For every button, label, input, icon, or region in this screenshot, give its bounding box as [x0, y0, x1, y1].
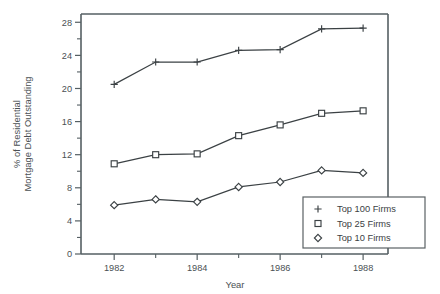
marker-square: [194, 151, 200, 157]
y-tick-label: 28: [62, 18, 72, 28]
marker-square: [360, 108, 366, 114]
marker-plus: [152, 58, 159, 65]
y-axis-title-line2: Mortgage Debt Outstanding: [22, 76, 33, 191]
x-tick-label: 1986: [270, 263, 290, 273]
marker-diamond: [111, 202, 118, 209]
y-axis-title-line1: % of Residential: [11, 100, 22, 168]
y-tick-label: 0: [67, 249, 72, 259]
marker-plus: [111, 81, 118, 88]
marker-square: [111, 161, 117, 167]
y-tick-label: 4: [67, 216, 72, 226]
y-tick-label: 12: [62, 150, 72, 160]
y-axis-tick-labels: 0481216202428: [62, 18, 72, 260]
marker-square: [315, 221, 321, 227]
legend-label: Top 10 Firms: [337, 233, 391, 243]
marker-square: [236, 133, 242, 139]
marker-plus: [235, 47, 242, 54]
y-tick-label: 24: [62, 51, 72, 61]
y-tick-label: 8: [67, 183, 72, 193]
series-square: [111, 108, 366, 167]
x-axis-tick-labels: 1982198419861988: [104, 263, 373, 273]
y-tick-label: 16: [62, 117, 72, 127]
marker-square: [153, 152, 159, 158]
marker-plus: [277, 46, 284, 53]
x-tick-label: 1988: [353, 263, 373, 273]
x-tick-label: 1982: [104, 263, 124, 273]
marker-plus: [194, 58, 201, 65]
data-series-group: [111, 24, 367, 208]
marker-plus: [318, 25, 325, 32]
marker-square: [319, 110, 325, 116]
y-tick-label: 20: [62, 84, 72, 94]
series-line: [114, 28, 363, 84]
legend-label: Top 100 Firms: [337, 204, 396, 214]
line-chart: 0481216202428 1982198419861988 % of Resi…: [0, 0, 440, 294]
marker-diamond: [194, 198, 201, 205]
marker-diamond: [152, 196, 159, 203]
series-plus: [111, 24, 367, 87]
marker-diamond: [318, 167, 325, 174]
marker-diamond: [277, 178, 284, 185]
marker-plus: [360, 24, 367, 31]
legend-label: Top 25 Firms: [337, 219, 391, 229]
chart-legend: Top 100 FirmsTop 25 FirmsTop 10 Firms: [303, 197, 425, 248]
marker-diamond: [235, 183, 242, 190]
chart-figure: 0481216202428 1982198419861988 % of Resi…: [0, 0, 440, 294]
x-axis-title: Year: [226, 279, 245, 290]
x-tick-label: 1984: [187, 263, 207, 273]
marker-square: [277, 122, 283, 128]
marker-diamond: [360, 169, 367, 176]
